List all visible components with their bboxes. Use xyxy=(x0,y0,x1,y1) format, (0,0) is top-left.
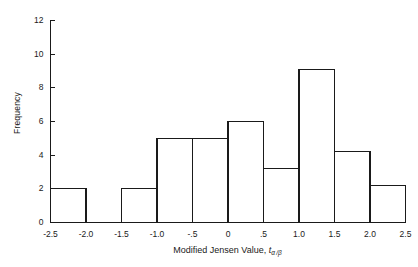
x-tick-label: -.5 xyxy=(176,230,210,239)
y-tick-label: 0 xyxy=(20,218,44,227)
y-tick-label: 12 xyxy=(20,16,44,25)
y-tick-label: 10 xyxy=(20,50,44,59)
x-axis-title-subscript: α /β xyxy=(271,249,282,256)
y-tick-label: 2 xyxy=(20,184,44,193)
x-tick-label: -1.5 xyxy=(105,230,139,239)
x-tick-label: 2.0 xyxy=(353,230,387,239)
x-tick-label: 0 xyxy=(211,230,245,239)
x-tick-label: 1.0 xyxy=(282,230,316,239)
y-tick-label: 6 xyxy=(20,117,44,126)
x-axis-title: Modified Jensen Value, tα /β xyxy=(50,245,405,256)
y-tick-label: 8 xyxy=(20,83,44,92)
histogram-bars-group xyxy=(51,69,406,222)
x-tick-label: -1.0 xyxy=(140,230,174,239)
histogram-figure: Frequency 024681012 -2.5-2.0-1.5-1.0-.50… xyxy=(0,0,418,267)
y-tick-label: 4 xyxy=(20,151,44,160)
x-tick-label: 2.5 xyxy=(389,230,418,239)
x-tick-label: -2.5 xyxy=(34,230,68,239)
x-tick-label: 1.5 xyxy=(318,230,352,239)
x-tick-label: .5 xyxy=(247,230,281,239)
plot-canvas xyxy=(0,0,418,267)
x-axis-title-text: Modified Jensen Value, xyxy=(173,245,268,255)
x-tick-label: -2.0 xyxy=(69,230,103,239)
